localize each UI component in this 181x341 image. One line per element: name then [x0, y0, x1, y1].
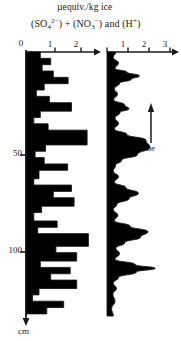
left-series-path [26, 52, 88, 314]
right-series-path [107, 52, 155, 316]
plot-canvas [0, 0, 181, 341]
right-series-curve [107, 52, 155, 316]
ice-core-chemistry-figure: µequiv./kg ice (SO42−) + (NO3−) and (H+)… [0, 0, 181, 341]
time-arrow [148, 103, 154, 143]
right-x-axis [107, 48, 179, 56]
left-series-histogram [26, 52, 88, 314]
